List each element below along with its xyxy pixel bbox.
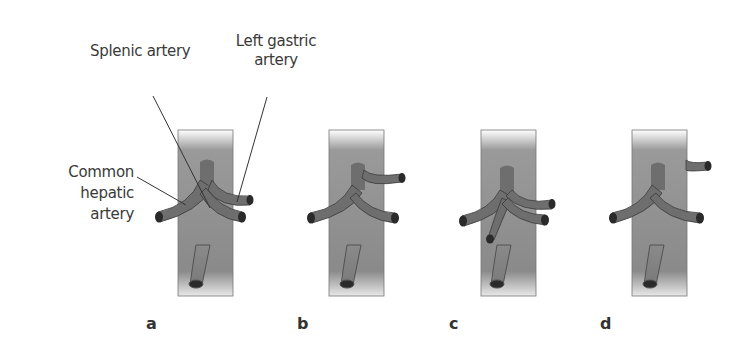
sma-orifice bbox=[189, 280, 203, 288]
splenic-end bbox=[541, 215, 549, 226]
panel-c bbox=[459, 130, 556, 296]
hepatic-end bbox=[155, 212, 163, 223]
label-common-hepatic-line2: hepatic bbox=[38, 183, 134, 204]
label-left-gastric-artery: Left gastric artery bbox=[226, 32, 326, 70]
left-gastric-end bbox=[247, 195, 254, 205]
panel-letter-c: c bbox=[449, 314, 458, 333]
panel-d bbox=[609, 130, 712, 296]
hepatic-end bbox=[609, 213, 617, 224]
label-common-hepatic-artery: Common hepatic artery bbox=[38, 162, 134, 225]
label-left-gastric-line2: artery bbox=[226, 51, 326, 70]
panel-letter-d: d bbox=[600, 314, 611, 333]
splenic-end bbox=[696, 213, 704, 224]
label-splenic-artery: Splenic artery bbox=[90, 42, 190, 61]
splenic-end bbox=[391, 213, 399, 224]
additional-branch-end bbox=[486, 235, 494, 244]
label-common-hepatic-line3: artery bbox=[38, 204, 134, 225]
label-left-gastric-line1: Left gastric bbox=[226, 32, 326, 51]
left-gastric-end bbox=[399, 173, 406, 183]
hepatic-end bbox=[459, 216, 467, 227]
label-common-hepatic-line1: Common bbox=[38, 162, 134, 183]
sma-orifice bbox=[490, 280, 504, 288]
panel-letter-a: a bbox=[146, 314, 157, 333]
panel-a bbox=[137, 96, 267, 296]
panel-b bbox=[307, 130, 406, 296]
splenic-end bbox=[238, 212, 246, 223]
hepatic-end bbox=[307, 213, 315, 224]
sma-orifice bbox=[340, 280, 354, 288]
left-gastric-end bbox=[549, 199, 556, 209]
left-gastric-end bbox=[705, 161, 712, 171]
panel-letter-b: b bbox=[297, 314, 308, 333]
leader-left-gastric bbox=[237, 97, 267, 202]
sma-orifice bbox=[643, 280, 657, 288]
